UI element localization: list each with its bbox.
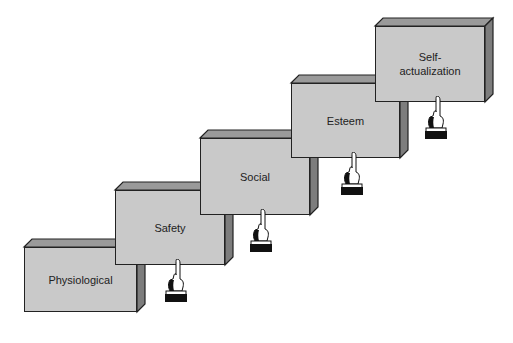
step-self-actualization-label-line2: actualization [399, 64, 460, 78]
pointing-hand-icon [164, 259, 190, 303]
step-esteem-label: Esteem [327, 114, 364, 128]
pointing-hand-icon [249, 209, 275, 253]
step-self-actualization-label-line1: Self- [399, 50, 460, 64]
step-self-actualization-face: Self- actualization [375, 26, 485, 102]
pointing-hand-icon [424, 96, 450, 140]
step-social-label: Social [240, 170, 270, 184]
step-safety-label: Safety [154, 221, 185, 235]
step-physiological-label: Physiological [48, 273, 112, 287]
pointing-hand-icon [340, 152, 366, 196]
hierarchy-staircase-diagram: Physiological Safety Social Esteem Self-… [0, 0, 513, 343]
